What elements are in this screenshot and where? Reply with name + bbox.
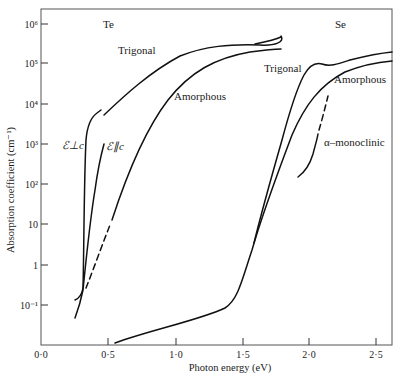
se-monoclinic-label: α–monoclinic [324,136,385,148]
x-axis [108,338,376,345]
y-tick-label: 10 [28,219,38,230]
x-tick-label: 0·5 [101,349,114,360]
absorption-chart: 10⁶ 10⁵ 10⁴ 10³ 10² 10 1 10⁻¹ 0·0 0·5 1·… [0,0,402,379]
se-group-label: Se [335,18,346,30]
y-tick-label: 10⁶ [25,19,39,30]
se-monoclinic-curve [298,134,318,177]
se-amorphous-label: Amorphous [334,73,386,85]
te-trigonal-label: Trigonal [118,44,156,56]
y-tick-label: 10⁻¹ [20,300,38,311]
se-monoclinic-dashed-segment [319,96,328,130]
plot-frame [41,9,392,345]
e-par-c-label: ℰ∥c [106,140,124,153]
y-axis-title: Absorption coefficient (cm⁻¹) [5,126,17,253]
te-amorphous-label: Amorphous [174,90,226,102]
y-tick-labels: 10⁶ 10⁵ 10⁴ 10³ 10² 10 1 10⁻¹ [20,19,39,311]
se-amorphous-curve [115,61,392,343]
y-tick-label: 10⁵ [25,58,39,69]
te-amorphous-curve [112,49,281,220]
te-e-par-c-curve [75,144,104,318]
y-axis [41,24,48,305]
x-axis-title: Photon energy (eV) [189,362,272,374]
e-perp-c-label: ℰ⊥c [62,139,84,151]
x-tick-label: 2·5 [369,349,382,360]
y-tick-label: 10³ [25,139,38,150]
x-tick-label: 2·0 [302,349,315,360]
x-tick-label: 0·0 [34,349,47,360]
x-tick-label: 1·5 [236,349,249,360]
se-trigonal-label: Trigonal [264,62,302,74]
y-tick-label: 1 [33,260,38,271]
x-tick-label: 1·0 [169,349,182,360]
y-tick-label: 10² [25,179,38,190]
y-tick-label: 10⁴ [25,99,39,110]
x-tick-labels: 0·0 0·5 1·0 1·5 2·0 2·5 [34,349,382,360]
te-group-label: Te [103,18,114,30]
